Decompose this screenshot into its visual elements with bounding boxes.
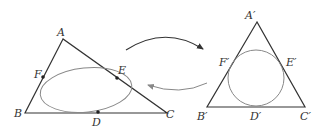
label-b: B bbox=[13, 107, 22, 120]
diagram-canvas: A B C D E F A′ B′ C′ D′ E′ F′ bbox=[0, 0, 325, 133]
label-d: D bbox=[91, 116, 101, 129]
label-f-prime: F′ bbox=[218, 56, 230, 69]
left-triangle: A B C D E F bbox=[13, 26, 175, 129]
label-c-prime: C′ bbox=[300, 110, 311, 123]
label-a: A bbox=[56, 26, 65, 39]
label-e: E bbox=[117, 64, 126, 77]
point-f bbox=[41, 75, 45, 79]
point-d bbox=[96, 110, 100, 114]
label-c: C bbox=[166, 108, 175, 121]
triangle-transformation-diagram: A B C D E F A′ B′ C′ D′ E′ F′ bbox=[0, 0, 325, 133]
label-f: F bbox=[33, 68, 42, 81]
right-triangle: A′ B′ C′ D′ E′ F′ bbox=[196, 9, 311, 123]
backward-arrow bbox=[148, 83, 207, 90]
label-d-prime: D′ bbox=[249, 110, 262, 123]
label-e-prime: E′ bbox=[285, 56, 297, 69]
label-a-prime: A′ bbox=[244, 9, 256, 22]
forward-arrow bbox=[126, 37, 203, 50]
label-b-prime: B′ bbox=[196, 110, 208, 123]
